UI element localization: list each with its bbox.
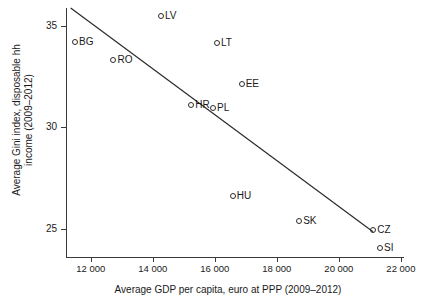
x-tick-20000 [339, 257, 340, 262]
y-tick-25 [61, 229, 66, 230]
y-tick-label-35: 35 [31, 21, 57, 31]
y-tick-30 [61, 127, 66, 128]
y-tick-label-25: 25 [31, 224, 57, 234]
data-point-label-EE: EE [246, 79, 259, 89]
data-point-label-HR: HR [195, 100, 209, 110]
data-point-HU[interactable] [230, 193, 236, 199]
trend-line [0, 0, 425, 308]
data-point-label-CZ: CZ [377, 225, 390, 235]
data-point-label-SK: SK [303, 216, 316, 226]
x-tick-12000 [91, 257, 92, 262]
data-point-label-HU: HU [237, 191, 251, 201]
data-point-SI[interactable] [377, 245, 383, 251]
x-tick-label-14000: 14 000 [127, 264, 179, 274]
data-point-EE[interactable] [239, 81, 245, 87]
x-tick-label-22000: 22 000 [375, 264, 425, 274]
y-axis-line [66, 8, 67, 258]
y-axis-title: Average Gini index, disposable hh income… [11, 35, 35, 205]
data-point-CZ[interactable] [370, 227, 376, 233]
data-point-HR[interactable] [188, 102, 194, 108]
data-point-SK[interactable] [296, 218, 302, 224]
data-point-LT[interactable] [214, 40, 220, 46]
x-tick-14000 [153, 257, 154, 262]
data-point-label-LT: LT [221, 38, 232, 48]
scatter-chart-figure: 253035 12 00014 00016 00018 00020 00022 … [0, 0, 425, 308]
data-point-label-BG: BG [79, 37, 93, 47]
data-point-PL[interactable] [210, 105, 216, 111]
x-axis-title: Average GDP per capita, euro at PPP (200… [48, 284, 408, 296]
x-tick-label-16000: 16 000 [189, 264, 241, 274]
data-point-RO[interactable] [110, 57, 116, 63]
data-point-label-RO: RO [117, 55, 132, 65]
x-tick-label-20000: 20 000 [313, 264, 365, 274]
x-tick-22000 [401, 257, 402, 262]
x-tick-label-12000: 12 000 [65, 264, 117, 274]
data-point-label-PL: PL [217, 103, 229, 113]
x-tick-label-18000: 18 000 [251, 264, 303, 274]
data-point-label-LV: LV [165, 11, 177, 21]
x-tick-18000 [277, 257, 278, 262]
data-point-LV[interactable] [158, 13, 164, 19]
x-tick-16000 [215, 257, 216, 262]
data-point-BG[interactable] [72, 39, 78, 45]
data-point-label-SI: SI [384, 243, 393, 253]
y-tick-35 [61, 26, 66, 27]
x-axis-line [66, 257, 404, 258]
